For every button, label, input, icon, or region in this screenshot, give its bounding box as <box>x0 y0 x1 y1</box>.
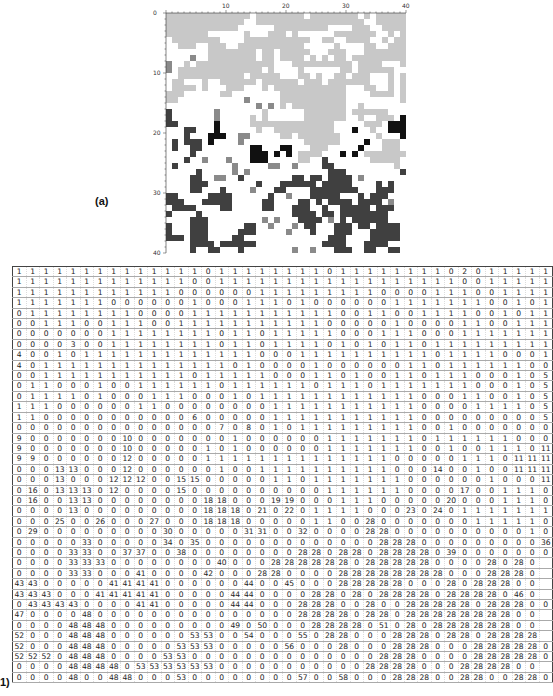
table-cell: 0 <box>391 308 405 318</box>
table-cell: 0 <box>107 652 121 662</box>
table-cell: 1 <box>175 371 189 381</box>
table-cell: 0 <box>242 558 256 568</box>
table-cell: 0 <box>391 464 405 474</box>
table-cell: 28 <box>404 600 418 610</box>
table-cell: 42 <box>202 568 216 578</box>
table-cell: 45 <box>283 579 297 589</box>
table-cell: 0 <box>418 339 432 349</box>
table-cell: 0 <box>148 298 162 308</box>
table-cell: 1 <box>337 391 351 401</box>
table-cell: 1 <box>242 298 256 308</box>
table-cell: 0 <box>107 391 121 401</box>
table-cell: 28 <box>458 631 472 641</box>
table-cell: 0 <box>242 433 256 443</box>
table-cell: 1 <box>296 287 310 297</box>
table-cell: 0 <box>283 600 297 610</box>
table-cell: 1 <box>350 350 364 360</box>
table-cell: 1 <box>445 277 459 287</box>
table-cell: 1 <box>485 516 499 526</box>
table-cell: 0 <box>418 495 432 505</box>
table-cell: 28 <box>364 527 378 537</box>
table-cell: 28 <box>310 620 324 630</box>
table-cell: 0 <box>53 547 67 557</box>
table-cell: 1 <box>80 267 94 277</box>
table-cell: 1 <box>337 287 351 297</box>
table-cell: 1 <box>296 267 310 277</box>
table-cell: 28 <box>499 652 513 662</box>
table-cell: 0 <box>526 443 540 453</box>
table-cell: 0 <box>364 360 378 370</box>
table-cell: 1 <box>202 339 216 349</box>
table-cell: 1 <box>458 308 472 318</box>
table-cell: 0 <box>472 568 486 578</box>
table-cell: 0 <box>148 412 162 422</box>
table-cell: 1 <box>242 308 256 318</box>
table-cell: 1 <box>364 423 378 433</box>
table-cell: 0 <box>350 516 364 526</box>
table-cell: 1 <box>539 350 553 360</box>
table-cell: 11 <box>512 454 526 464</box>
table-cell: 0 <box>121 485 135 495</box>
table-cell: 1 <box>323 381 337 391</box>
table-cell: 28 <box>283 558 297 568</box>
table-cell: 0 <box>445 558 459 568</box>
table-row: 0011111111111011111000110100110111000105 <box>13 371 553 381</box>
table-cell: 0 <box>107 600 121 610</box>
table-cell: 0 <box>134 443 148 453</box>
table-cell: 0 <box>269 506 283 516</box>
table-cell: 0 <box>53 402 67 412</box>
table-cell: 0 <box>310 652 324 662</box>
table-cell: 0 <box>121 652 135 662</box>
table-cell: 0 <box>202 527 216 537</box>
table-cell: 13 <box>67 506 81 516</box>
table-row: 0000333300041000042000282800002828282828… <box>13 568 553 578</box>
table-cell: 28 <box>458 620 472 630</box>
table-cell: 1 <box>148 267 162 277</box>
table-cell: 0 <box>526 662 540 672</box>
table-cell: 52 <box>13 631 27 641</box>
table-cell: 0 <box>418 506 432 516</box>
table-cell: 0 <box>229 527 243 537</box>
table-cell: 0 <box>323 527 337 537</box>
table-cell: 0 <box>40 433 54 443</box>
table-cell: 0 <box>13 537 27 547</box>
table-cell: 0 <box>526 433 540 443</box>
table-row: 0000333333000000004000028282828282802828… <box>13 558 553 568</box>
table-cell: 1 <box>242 454 256 464</box>
table-cell: 1 <box>323 402 337 412</box>
table-cell: 0 <box>53 568 67 578</box>
table-cell: 0 <box>175 631 189 641</box>
table-cell: 0 <box>404 464 418 474</box>
table-cell: 1 <box>391 475 405 485</box>
table-cell: 0 <box>418 620 432 630</box>
table-cell: 0 <box>458 412 472 422</box>
table-cell: 0 <box>175 287 189 297</box>
table-cell: 0 <box>431 641 445 651</box>
table-cell: 28 <box>404 568 418 578</box>
table-cell: 0 <box>458 641 472 651</box>
table-cell: 3 <box>67 339 81 349</box>
table-cell: 0 <box>13 558 27 568</box>
table-cell: 0 <box>391 620 405 630</box>
table-cell: 0 <box>418 516 432 526</box>
table-cell: 0 <box>202 547 216 557</box>
table-cell: 0 <box>94 329 108 339</box>
table-row: 5252520484848000053530000000000000028282… <box>13 652 553 662</box>
table-cell: 1 <box>539 277 553 287</box>
table-cell: 0 <box>526 298 540 308</box>
table-cell: 0 <box>512 610 526 620</box>
table-cell: 1 <box>391 371 405 381</box>
table-cell: 0 <box>67 454 81 464</box>
table-row: 0000300111111110110111101010110111111111 <box>13 339 553 349</box>
table-cell: 0 <box>202 402 216 412</box>
table-cell: 28 <box>377 547 391 557</box>
table-cell: 0 <box>499 547 513 557</box>
table-cell: 0 <box>161 485 175 495</box>
table-cell: 0 <box>485 495 499 505</box>
table-cell: 1 <box>40 267 54 277</box>
table-cell: 48 <box>80 610 94 620</box>
table-cell: 53 <box>175 672 189 682</box>
table-cell: 0 <box>364 381 378 391</box>
table-cell: 1 <box>40 360 54 370</box>
table-cell: 1 <box>404 402 418 412</box>
